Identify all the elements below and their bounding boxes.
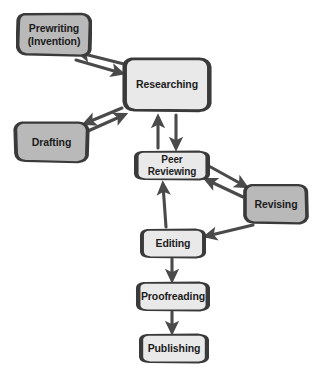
- writing-process-diagram: Prewriting (Invention) Researching Draft…: [0, 0, 321, 377]
- node-peer-reviewing[interactable]: Peer Reviewing: [134, 150, 210, 181]
- node-label: Researching: [134, 78, 200, 90]
- node-label: Publishing: [146, 342, 203, 354]
- node-publishing[interactable]: Publishing: [139, 333, 209, 364]
- node-drafting[interactable]: Drafting: [13, 120, 90, 164]
- node-proofreading[interactable]: Proofreading: [136, 281, 210, 312]
- node-label: Editing: [154, 237, 193, 249]
- node-label: Drafting: [30, 136, 73, 148]
- node-revising[interactable]: Revising: [243, 183, 309, 225]
- edge-editing-to-peer-reviewing: [163, 185, 166, 227]
- node-editing[interactable]: Editing: [140, 228, 206, 259]
- node-label: Proofreading: [139, 290, 207, 302]
- edge-prewriting-to-researching: [76, 60, 121, 73]
- edge-revising-to-editing: [207, 225, 253, 236]
- edge-researching-to-drafting: [86, 108, 122, 123]
- edge-drafting-to-researching: [88, 115, 124, 131]
- edge-peer-reviewing-to-revising: [207, 165, 245, 186]
- node-label: Revising: [253, 198, 300, 210]
- node-prewriting[interactable]: Prewriting (Invention): [16, 11, 92, 58]
- node-label: Peer Reviewing: [134, 154, 210, 177]
- node-researching[interactable]: Researching: [122, 56, 212, 113]
- node-label: Prewriting (Invention): [26, 22, 83, 46]
- edge-revising-to-peer-reviewing: [207, 180, 243, 197]
